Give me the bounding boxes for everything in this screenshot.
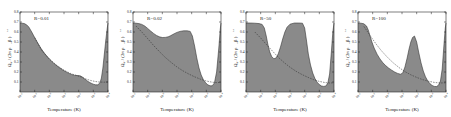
x-tick-label: 10-1 <box>31 92 39 100</box>
x-tick-label: 104 <box>104 92 112 100</box>
x-axis-title: Temperature (K) <box>273 107 307 112</box>
svg-text:0: 0 <box>388 92 391 96</box>
svg-text:0: 0 <box>162 92 165 96</box>
y-tick-label: 0.5 <box>240 40 245 44</box>
y-tick-label: 0.8 <box>352 10 357 14</box>
y-tick-label: 0.6 <box>127 30 132 34</box>
y-tick-label: 0.6 <box>240 30 245 34</box>
svg-text:eff: eff <box>9 61 13 64</box>
x-tick-label: 10-1 <box>257 92 265 100</box>
svg-text:eff: eff <box>122 61 126 64</box>
svg-text:4: 4 <box>446 92 449 96</box>
x-tick-label: 102 <box>75 92 83 100</box>
svg-text:β ): β ) <box>119 36 124 42</box>
y-tick-label: 0.4 <box>127 50 132 54</box>
y-tick-label: 0.1 <box>240 80 245 84</box>
svg-text:3: 3 <box>432 92 435 96</box>
svg-text:eff: eff <box>347 61 351 64</box>
y-tick-label: 0.3 <box>240 60 245 64</box>
y-tick-label: 0.3 <box>127 60 132 64</box>
x-tick-label: 104 <box>330 92 338 100</box>
y-tick-label: 0.1 <box>127 80 132 84</box>
svg-text:/ (2π ρ: / (2π ρ <box>119 47 124 60</box>
x-tick-label: 102 <box>413 92 421 100</box>
x-tick-label: 10-1 <box>369 92 377 100</box>
svg-text:4: 4 <box>333 92 336 96</box>
y-tick-label: 0.2 <box>14 70 19 74</box>
y-tick-label: 0.6 <box>14 30 19 34</box>
svg-text:1: 1 <box>64 92 67 96</box>
y-axis-title: Ωeff/ (2π ρ0 β )1/2 <box>231 28 239 67</box>
x-tick-label: 104 <box>443 92 451 100</box>
x-tick-label: 10-2 <box>129 92 137 100</box>
svg-text:3: 3 <box>319 92 322 96</box>
svg-text:2: 2 <box>79 92 82 96</box>
x-tick-label: 100 <box>46 92 54 100</box>
y-tick-label: 0.3 <box>14 60 19 64</box>
x-tick-label: 100 <box>271 92 279 100</box>
y-tick-label: 0.5 <box>14 40 19 44</box>
x-tick-label: 100 <box>158 92 166 100</box>
y-tick-label: 0.4 <box>352 50 357 54</box>
svg-text:β ): β ) <box>345 36 350 42</box>
y-tick-label: 0.8 <box>240 10 245 14</box>
y-tick-label: 0.1 <box>352 80 357 84</box>
x-tick-label: 103 <box>90 92 98 100</box>
x-tick-label: 102 <box>301 92 309 100</box>
svg-text:1/2: 1/2 <box>231 28 235 32</box>
svg-text:4: 4 <box>221 92 224 96</box>
x-tick-label: 101 <box>173 92 181 100</box>
svg-text:1: 1 <box>289 92 292 96</box>
y-tick-label: 0.7 <box>352 20 357 24</box>
x-tick-label: 10-1 <box>144 92 152 100</box>
panel-label: R=100 <box>372 16 386 21</box>
plot-panel-4: 10-210-11001011021031040.10.20.30.40.50.… <box>338 0 451 117</box>
x-tick-label: 100 <box>384 92 392 100</box>
svg-text:/ (2π ρ: / (2π ρ <box>345 47 350 60</box>
x-tick-label: 101 <box>60 92 68 100</box>
svg-text:1: 1 <box>402 92 405 96</box>
y-tick-label: 0.4 <box>14 50 19 54</box>
panel-label: R=0.01 <box>34 16 49 21</box>
y-axis-title: Ωeff/ (2π ρ0 β )1/2 <box>118 28 126 67</box>
svg-text:0: 0 <box>275 92 278 96</box>
y-tick-label: 0.3 <box>352 60 357 64</box>
svg-text:3: 3 <box>206 92 209 96</box>
y-tick-label: 0.6 <box>352 30 357 34</box>
y-tick-label: 0.8 <box>127 10 132 14</box>
svg-text:β ): β ) <box>232 36 237 42</box>
y-tick-label: 0.2 <box>240 70 245 74</box>
plot-panel-1: 10-210-11001011021031040.10.20.30.40.50.… <box>0 0 113 117</box>
svg-text:β ): β ) <box>7 36 12 42</box>
x-tick-label: 102 <box>188 92 196 100</box>
y-tick-label: 0.4 <box>240 50 245 54</box>
panel-label: R=50 <box>260 16 272 21</box>
y-tick-label: 0.2 <box>127 70 132 74</box>
svg-text:1/2: 1/2 <box>118 28 122 32</box>
svg-text:eff: eff <box>234 61 238 64</box>
y-tick-label: 0.7 <box>127 20 132 24</box>
panel-label: R=0.02 <box>147 16 162 21</box>
x-axis-title: Temperature (K) <box>47 107 81 112</box>
x-tick-label: 101 <box>399 92 407 100</box>
svg-text:1/2: 1/2 <box>344 28 348 32</box>
svg-text:2: 2 <box>191 92 194 96</box>
y-axis-title: Ωeff/ (2π ρ0 β )1/2 <box>5 28 13 67</box>
plot-panel-3: 10-210-11001011021031040.10.20.30.40.50.… <box>226 0 339 117</box>
x-tick-label: 10-2 <box>16 92 24 100</box>
y-tick-label: 0.7 <box>14 20 19 24</box>
figure-multi-panel: 10-210-11001011021031040.10.20.30.40.50.… <box>0 0 451 117</box>
svg-text:/ (2π ρ: / (2π ρ <box>7 47 12 60</box>
x-tick-label: 103 <box>315 92 323 100</box>
svg-text:1: 1 <box>177 92 180 96</box>
x-axis-title: Temperature (K) <box>386 107 420 112</box>
x-tick-label: 101 <box>286 92 294 100</box>
y-tick-label: 0.2 <box>352 70 357 74</box>
y-tick-label: 0.7 <box>240 20 245 24</box>
svg-text:3: 3 <box>93 92 96 96</box>
svg-text:/ (2π ρ: / (2π ρ <box>232 47 237 60</box>
x-tick-label: 103 <box>202 92 210 100</box>
y-axis-title: Ωeff/ (2π ρ0 β )1/2 <box>344 28 352 67</box>
x-tick-label: 103 <box>428 92 436 100</box>
y-tick-label: 0.5 <box>127 40 132 44</box>
